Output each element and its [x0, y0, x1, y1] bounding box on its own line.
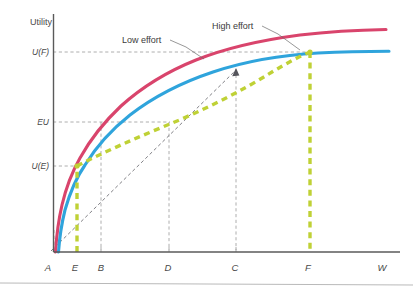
y-axis-title: Utility: [30, 17, 52, 27]
annotation-low-effort: Low effort: [122, 35, 204, 59]
xtick-label-c: C: [232, 262, 239, 273]
xtick-label-a: A: [44, 262, 51, 273]
ytick-label-uf: U(F): [32, 47, 49, 57]
annotation-low-effort-label: Low effort: [122, 35, 162, 45]
xtick-label-e: E: [72, 262, 79, 273]
green-chord-e-to-f: [77, 52, 310, 166]
ytick-label-ue: U(E): [32, 161, 50, 171]
annotation-high-effort-label: High effort: [212, 21, 254, 31]
x-axis-tick-labels: A E B D C F W: [44, 262, 388, 273]
utility-wealth-chart: U(F) EU U(E) Utility A E B D C F W Low e…: [0, 0, 413, 296]
green-node-uf: [307, 49, 312, 54]
xtick-label-f: F: [305, 262, 312, 273]
x-tick-marks: [101, 247, 236, 252]
curve-high-effort: [56, 30, 387, 253]
horizontal-gridlines: [53, 52, 312, 166]
green-node-ue: [74, 163, 79, 168]
y-axis-tick-labels: U(F) EU U(E): [32, 47, 50, 171]
bottom-divider: [0, 283, 413, 285]
x-axis-title: W: [378, 262, 388, 273]
xtick-label-b: B: [98, 262, 105, 273]
vertical-gridlines: [54, 69, 236, 252]
chord-arrowhead: [232, 68, 239, 76]
ytick-label-eu: EU: [37, 117, 50, 127]
xtick-label-d: D: [165, 262, 172, 273]
